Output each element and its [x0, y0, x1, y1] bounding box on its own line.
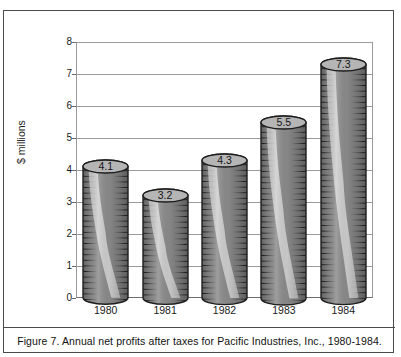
- x-axis-labels: 19801981198219831984: [76, 303, 373, 323]
- y-tick-label: 6: [54, 101, 72, 111]
- x-tick-label: 1980: [77, 303, 135, 317]
- y-axis-ticks: 876543210: [50, 42, 72, 298]
- y-tick-label: 0: [54, 293, 72, 303]
- figure-caption: Figure 7. Annual net profits after taxes…: [4, 328, 395, 354]
- bar-cylinder-graphic: [143, 189, 188, 304]
- bar-cylinder[interactable]: 7.3: [321, 58, 366, 298]
- x-tick-label: 1982: [196, 303, 254, 317]
- y-tick-label: 4: [54, 165, 72, 175]
- bar-cylinder[interactable]: 4.3: [202, 154, 247, 298]
- x-tick-label: 1981: [136, 303, 194, 317]
- y-tick-label: 2: [54, 229, 72, 239]
- bars-layer: 4.13.24.35.57.3: [76, 42, 373, 298]
- y-tick-mark: [72, 298, 76, 299]
- x-tick-label: 1984: [314, 303, 372, 317]
- bar-cylinder[interactable]: 4.1: [83, 160, 128, 298]
- y-axis-title: $ millions: [15, 97, 27, 187]
- y-tick-label: 7: [54, 69, 72, 79]
- bar-cylinder-graphic: [83, 160, 128, 304]
- chart-region: $ millions 876543210 4.13.24.35.57.3 198…: [4, 11, 395, 327]
- bar-cylinder-graphic: [321, 58, 366, 305]
- bar-cylinder-graphic: [261, 116, 306, 305]
- y-tick-label: 8: [54, 37, 72, 47]
- figure-frame: $ millions 876543210 4.13.24.35.57.3 198…: [3, 10, 394, 353]
- bar-cylinder[interactable]: 5.5: [261, 116, 306, 299]
- bar-cylinder-graphic: [202, 154, 247, 305]
- y-tick-label: 3: [54, 197, 72, 207]
- y-tick-label: 5: [54, 133, 72, 143]
- x-tick-label: 1983: [255, 303, 313, 317]
- bar-cylinder[interactable]: 3.2: [143, 189, 188, 298]
- y-tick-label: 1: [54, 261, 72, 271]
